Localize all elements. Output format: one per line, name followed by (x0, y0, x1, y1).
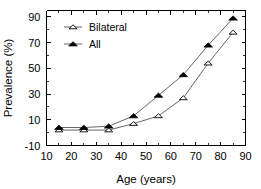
x-tick-label: 50 (140, 150, 152, 162)
chart-figure: 102030405060708090 -101030507090 Age (ye… (0, 0, 261, 189)
x-axis-title: Age (years) (116, 173, 176, 185)
x-tick-label: 30 (90, 150, 102, 162)
legend-label-bilateral: Bilateral (89, 21, 127, 33)
x-tick-label: 20 (65, 150, 77, 162)
y-axis-title: Prevalence (%) (2, 39, 14, 118)
x-tick-label: 70 (190, 150, 202, 162)
y-tick-label: 50 (28, 62, 40, 74)
x-tick-label: 60 (165, 150, 177, 162)
y-tick-label: 30 (28, 88, 40, 100)
x-tick-label: 10 (40, 150, 52, 162)
legend-label-all: All (89, 38, 101, 50)
x-tick-label: 40 (115, 150, 127, 162)
x-tick-label: 80 (215, 150, 227, 162)
y-tick-label: 10 (28, 114, 40, 126)
y-tick-label: 70 (28, 37, 40, 49)
prevalence-vs-age-line-chart: 102030405060708090 -101030507090 Age (ye… (0, 0, 261, 189)
x-tick-label: 90 (239, 150, 251, 162)
y-tick-label: -10 (25, 140, 41, 152)
y-tick-label: 90 (28, 11, 40, 23)
x-axis-tick-labels: 102030405060708090 (40, 150, 251, 162)
